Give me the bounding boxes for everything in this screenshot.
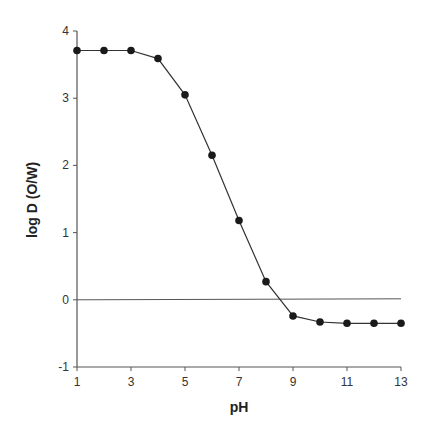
x-tick-label: 9: [290, 375, 297, 389]
data-point: [343, 320, 351, 328]
y-tick-label: 0: [62, 293, 69, 307]
x-axis-title: pH: [230, 399, 249, 415]
data-point: [100, 47, 108, 55]
data-point: [181, 91, 189, 99]
data-point: [208, 152, 216, 160]
y-tick-label: 3: [62, 91, 69, 105]
y-tick-label: -1: [58, 360, 69, 374]
x-tick-label: 5: [182, 375, 189, 389]
data-point: [235, 217, 243, 225]
data-point: [316, 318, 324, 326]
y-tick-label: 4: [62, 24, 69, 38]
y-tick-label: 2: [62, 158, 69, 172]
data-point: [73, 47, 81, 55]
y-axis-title: log D (O/W): [24, 162, 40, 238]
x-tick-label: 11: [341, 375, 354, 389]
data-point: [262, 278, 270, 286]
data-point: [154, 55, 162, 63]
x-tick-label: 13: [394, 375, 408, 389]
line-chart: -101234135791113 pH log D (O/W): [0, 0, 431, 436]
y-tick-label: 1: [62, 226, 69, 240]
x-tick-label: 1: [74, 375, 81, 389]
data-point: [289, 312, 297, 320]
series-line: [77, 50, 401, 323]
zero-reference-line: [77, 299, 401, 300]
data-series: [73, 47, 405, 327]
data-point: [370, 320, 378, 328]
data-point: [127, 47, 135, 55]
x-tick-label: 3: [128, 375, 135, 389]
data-point: [397, 320, 405, 328]
x-tick-label: 7: [236, 375, 243, 389]
